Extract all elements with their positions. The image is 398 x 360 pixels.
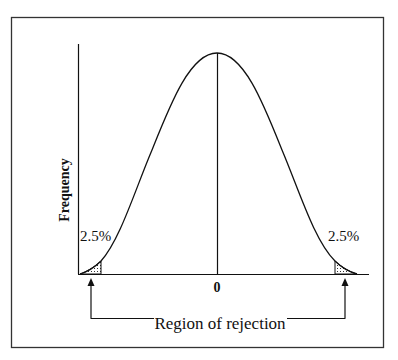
normal-curve (80, 53, 357, 274)
left-arrow-head (88, 278, 95, 286)
x-tick-zero: 0 (214, 280, 221, 295)
region-of-rejection-label: Region of rejection (154, 314, 286, 333)
chart-figure: Frequency 2.5% 2.5% 0 Region of rejectio… (0, 0, 398, 360)
left-tail-region (80, 261, 101, 274)
y-axis-label: Frequency (57, 158, 72, 222)
right-tail-region (335, 261, 357, 274)
right-arrow-head (342, 278, 349, 286)
left-tail-percent: 2.5% (80, 228, 111, 244)
right-tail-percent: 2.5% (328, 228, 359, 244)
